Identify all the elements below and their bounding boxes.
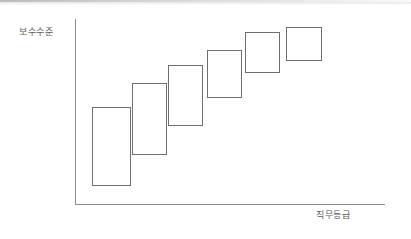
y-axis-line	[75, 19, 76, 205]
x-axis-line	[75, 204, 385, 205]
plot-area: 보수수준 직무등급	[0, 0, 411, 239]
pay-band-box	[132, 83, 167, 155]
pay-band-box	[207, 50, 242, 98]
pay-band-box	[168, 65, 203, 126]
x-axis-label: 직무등급	[316, 208, 350, 221]
pay-band-box	[92, 107, 131, 186]
pay-band-box	[245, 32, 280, 73]
figure-root: 보수수준 직무등급	[0, 0, 411, 239]
pay-band-box	[286, 27, 322, 61]
y-axis-label: 보수수준	[19, 25, 53, 38]
